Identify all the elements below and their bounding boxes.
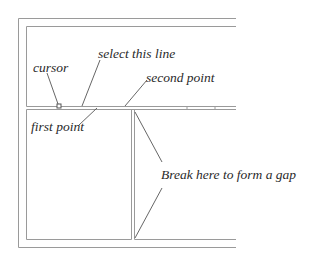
label-cursor: cursor <box>33 61 68 75</box>
leader-break-upper <box>135 112 162 162</box>
leader-break-lower <box>135 188 162 238</box>
leader-cursor <box>47 73 58 104</box>
leader-select-line <box>82 60 100 106</box>
label-first-point: first point <box>31 120 84 134</box>
label-select-line: select this line <box>98 47 175 61</box>
label-second-point: second point <box>146 71 215 85</box>
cursor-icon <box>57 104 61 108</box>
label-break-gap: Break here to form a gap <box>161 168 296 182</box>
leader-second-point <box>125 80 147 106</box>
